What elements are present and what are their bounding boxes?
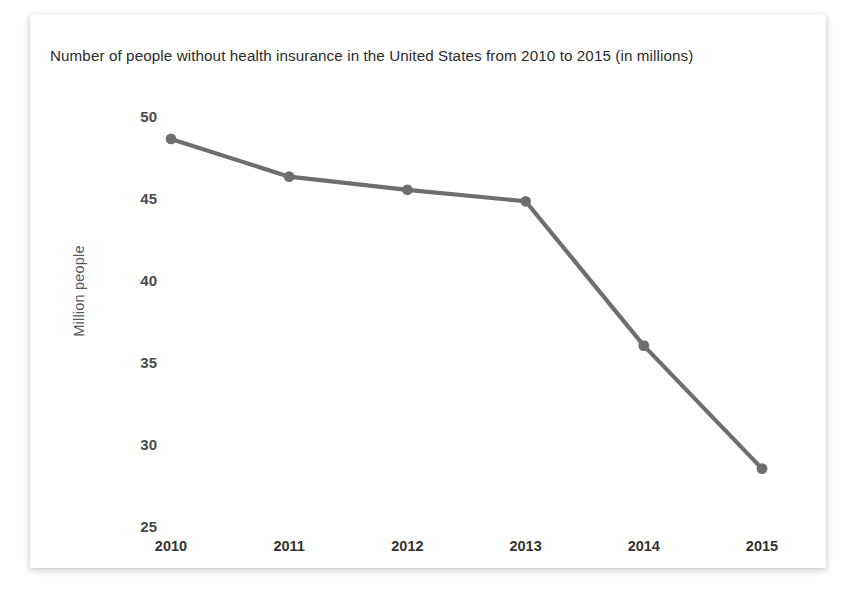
line-chart-svg	[30, 14, 826, 568]
series-line-health-insurance	[171, 139, 762, 469]
series-marker-group	[166, 134, 768, 474]
chart-card: Number of people without health insuranc…	[30, 14, 826, 568]
plot-area	[30, 14, 826, 568]
data-point-marker	[402, 184, 413, 195]
data-point-marker	[166, 134, 177, 145]
data-point-marker	[520, 196, 531, 207]
screenshot-root: Number of people without health insuranc…	[0, 0, 862, 610]
data-point-marker	[757, 463, 768, 474]
data-point-marker	[284, 171, 295, 182]
data-point-marker	[638, 340, 649, 351]
